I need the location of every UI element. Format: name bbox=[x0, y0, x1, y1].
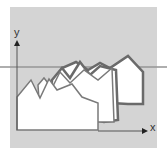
x-axis-arrow-icon bbox=[142, 128, 148, 134]
layered-profile-diagram bbox=[0, 0, 167, 153]
y-axis-label: y bbox=[14, 26, 20, 38]
x-axis-label: x bbox=[150, 121, 156, 133]
y-axis-arrow-icon bbox=[14, 40, 20, 46]
